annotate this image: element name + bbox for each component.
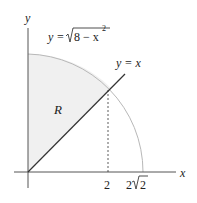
- curve-label-exponent: 2: [102, 25, 106, 33]
- line-label: y = x: [116, 57, 141, 69]
- y-axis-label: y: [25, 12, 30, 24]
- region-r-fill: [28, 54, 111, 172]
- region-label: R: [54, 103, 62, 116]
- curve-radicand-text: 8 − x: [74, 30, 99, 44]
- curve-label-lhs: y =: [48, 31, 64, 43]
- x-axis-label: x: [180, 167, 185, 179]
- curve-label-radicand: 8 − x: [74, 31, 99, 43]
- tick-label-2: 2: [104, 179, 110, 191]
- tick-label-2root2-coef: 2: [126, 179, 132, 191]
- tick-label-2root2-radicand: 2: [140, 179, 146, 191]
